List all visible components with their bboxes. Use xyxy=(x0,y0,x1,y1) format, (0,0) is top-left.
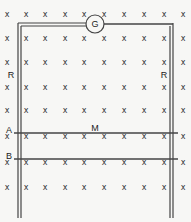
field-cross-icon: x xyxy=(181,84,186,92)
field-cross-icon: x xyxy=(63,184,68,192)
field-cross-icon: x xyxy=(142,133,147,141)
field-cross-icon: x xyxy=(82,84,87,92)
field-cross-icon: x xyxy=(122,159,127,167)
field-cross-icon: x xyxy=(162,107,167,115)
field-cross-icon: x xyxy=(24,35,29,43)
field-cross-icon: x xyxy=(43,133,48,141)
field-cross-icon: x xyxy=(5,11,10,19)
field-cross-icon: x xyxy=(122,84,127,92)
field-cross-icon: x xyxy=(63,84,68,92)
field-cross-icon: x xyxy=(181,59,186,67)
field-cross-icon: x xyxy=(122,107,127,115)
field-cross-icon: x xyxy=(122,133,127,141)
field-cross-icon: x xyxy=(122,184,127,192)
field-cross-icon: x xyxy=(102,84,107,92)
field-cross-icon: x xyxy=(24,84,29,92)
field-cross-icon: x xyxy=(5,35,10,43)
field-cross-icon: x xyxy=(122,59,127,67)
field-cross-icon: x xyxy=(181,11,186,19)
field-cross-icon: x xyxy=(162,84,167,92)
field-cross-icon: x xyxy=(142,84,147,92)
field-cross-icon: x xyxy=(82,159,87,167)
field-cross-icon: x xyxy=(24,159,29,167)
field-cross-icon: x xyxy=(181,107,186,115)
field-cross-icon: x xyxy=(24,59,29,67)
field-cross-icon: x xyxy=(142,159,147,167)
field-cross-icon: x xyxy=(24,133,29,141)
field-cross-icon: x xyxy=(5,107,10,115)
field-cross-icon: x xyxy=(122,11,127,19)
field-cross-icon: x xyxy=(102,159,107,167)
field-cross-icon: x xyxy=(102,11,107,19)
field-cross-icon: x xyxy=(142,59,147,67)
field-cross-icon: x xyxy=(63,159,68,167)
field-cross-icon: x xyxy=(162,184,167,192)
field-cross-icon: x xyxy=(181,184,186,192)
field-cross-icon: x xyxy=(24,11,29,19)
right-rail-label: R xyxy=(161,71,168,80)
rod-a-label: A xyxy=(6,126,12,135)
field-cross-icon: x xyxy=(82,133,87,141)
field-cross-icon: x xyxy=(82,59,87,67)
field-cross-icon: x xyxy=(43,84,48,92)
field-cross-icon: x xyxy=(63,11,68,19)
field-cross-icon: x xyxy=(82,107,87,115)
rod-b-label: B xyxy=(6,152,12,161)
field-cross-icon: x xyxy=(162,11,167,19)
field-cross-icon: x xyxy=(43,184,48,192)
field-cross-icon: x xyxy=(142,107,147,115)
field-cross-icon: x xyxy=(43,35,48,43)
galvanometer-label: G xyxy=(91,20,98,29)
field-cross-icon: x xyxy=(122,35,127,43)
field-cross-icon: x xyxy=(63,59,68,67)
field-cross-icon: x xyxy=(102,59,107,67)
field-cross-icon: x xyxy=(63,107,68,115)
field-cross-icon: x xyxy=(24,107,29,115)
rod-midpoint-label: M xyxy=(91,124,99,133)
field-cross-icon: x xyxy=(102,133,107,141)
field-cross-icon: x xyxy=(162,133,167,141)
field-cross-icon: x xyxy=(5,59,10,67)
field-cross-icon: x xyxy=(82,184,87,192)
field-cross-icon: x xyxy=(43,159,48,167)
field-cross-icon: x xyxy=(43,59,48,67)
field-cross-icon: x xyxy=(102,184,107,192)
field-cross-icon: x xyxy=(162,59,167,67)
field-cross-icon: x xyxy=(63,133,68,141)
field-cross-icon: x xyxy=(181,133,186,141)
field-cross-icon: x xyxy=(43,107,48,115)
field-cross-icon: x xyxy=(5,184,10,192)
circuit-diagram: xxxxxxxxxxxxxxxxxxxxxxxxxxxxxxxxxxxxxxxx… xyxy=(0,0,191,222)
field-cross-icon: x xyxy=(142,35,147,43)
field-cross-icon: x xyxy=(181,159,186,167)
field-cross-icon: x xyxy=(142,184,147,192)
field-cross-icon: x xyxy=(142,11,147,19)
field-cross-icon: x xyxy=(102,107,107,115)
field-cross-icon: x xyxy=(82,11,87,19)
field-cross-icon: x xyxy=(181,35,186,43)
field-cross-icon: x xyxy=(63,35,68,43)
field-cross-icon: x xyxy=(5,84,10,92)
field-cross-icon: x xyxy=(43,11,48,19)
field-cross-icon: x xyxy=(24,184,29,192)
left-rail-label: R xyxy=(8,71,15,80)
field-cross-icon: x xyxy=(102,35,107,43)
field-cross-icon: x xyxy=(82,35,87,43)
field-cross-icon: x xyxy=(162,35,167,43)
field-cross-icon: x xyxy=(162,159,167,167)
